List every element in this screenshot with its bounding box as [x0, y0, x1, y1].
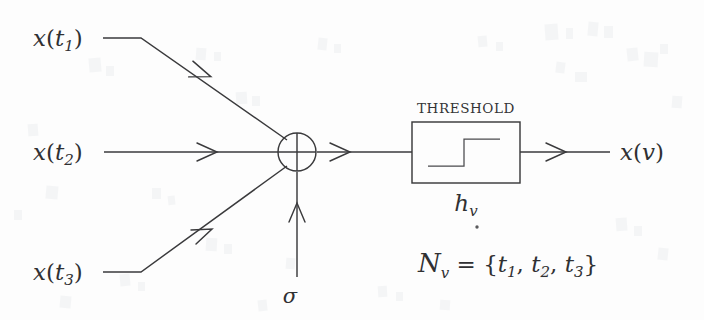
- output-label: x(v): [620, 139, 664, 165]
- bias-wire: [289, 172, 305, 277]
- neuron-diagram: x(t1) x(t2) x(t3) σ THRESHOLD hv x(v) Nv…: [0, 0, 704, 320]
- summation-node: [278, 133, 316, 171]
- bias-label: σ: [283, 284, 298, 308]
- threshold-sublabel: hv: [454, 190, 478, 220]
- step-function-icon: [428, 139, 500, 166]
- neighborhood-equation: Nv = {t1, t2, t3}: [417, 248, 598, 282]
- arrowhead-input-1: [189, 61, 212, 79]
- threshold-title: THRESHOLD: [417, 100, 515, 116]
- adder-to-threshold-wire: [317, 143, 412, 161]
- input-wire-1: [103, 38, 287, 140]
- input-label-1: x(t1): [33, 25, 83, 55]
- arrowhead-input-3: [191, 229, 212, 244]
- input-wire-2: [104, 143, 278, 161]
- scan-speck: [475, 225, 478, 228]
- threshold-block: [412, 122, 520, 183]
- figure-root: x(t1) x(t2) x(t3) σ THRESHOLD hv x(v) Nv…: [0, 0, 704, 320]
- input-label-2: x(t2): [33, 139, 83, 169]
- input-label-3: x(t3): [33, 259, 83, 289]
- threshold-to-output-wire: [520, 143, 610, 161]
- input-wire-3: [103, 166, 287, 272]
